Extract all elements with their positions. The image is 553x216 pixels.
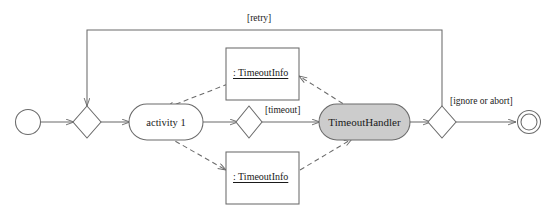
initial-node[interactable] [16, 110, 41, 135]
edge-label-timeout: [timeout] [265, 105, 300, 115]
activity-node-shape[interactable] [129, 104, 203, 140]
object-node-label: : TimeoutInfo [233, 67, 288, 78]
edge-object-bottom-to-handler [300, 139, 352, 170]
activity-diagram-canvas: activity 1 TimeoutHandler : TimeoutInfo … [0, 0, 553, 216]
edge-handler-to-object-top [299, 76, 350, 108]
edge-label-ignore-or-abort: [ignore or abort] [450, 96, 513, 106]
merge-node[interactable] [73, 106, 101, 138]
edge-activity-to-object-bottom [168, 137, 226, 170]
final-node-inner [521, 114, 537, 130]
decision-node[interactable] [428, 106, 456, 138]
timeout-handler-node-shape[interactable] [319, 104, 410, 140]
edge-label-retry: [retry] [247, 13, 271, 23]
decision-node[interactable] [236, 106, 262, 138]
object-node-label: : TimeoutInfo [233, 171, 288, 182]
